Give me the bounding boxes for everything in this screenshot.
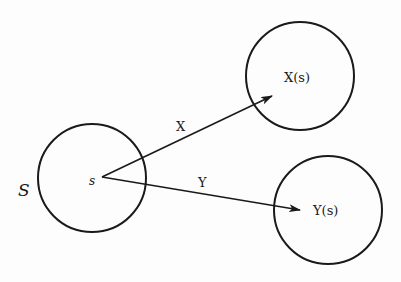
set-xs-label: X(s) [284, 70, 310, 85]
set-ys-label: Y(s) [312, 203, 338, 218]
set-s-label: S [18, 180, 30, 200]
arrow-x-label: X [176, 119, 186, 134]
diagram-canvas: S s X(s) Y(s) X Y [0, 0, 401, 282]
element-s-label: s [89, 174, 95, 188]
arrow-y-label: Y [197, 175, 207, 190]
mapping-diagram: S s X(s) Y(s) X Y [0, 0, 401, 282]
